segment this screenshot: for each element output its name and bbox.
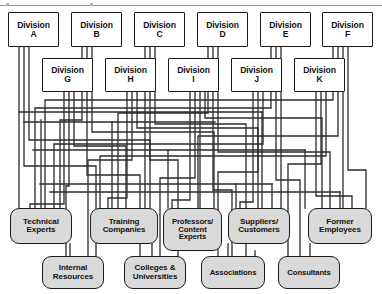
division-a[interactable]: Division A: [8, 12, 59, 47]
division-f-label: Division F: [331, 21, 364, 39]
internal-resources[interactable]: Internal Resources: [42, 256, 104, 289]
colleges-universities[interactable]: Colleges & Universities: [124, 256, 186, 289]
training-companies-label: Training Companies: [103, 218, 146, 235]
colleges-universities-label: Colleges & Universities: [133, 264, 178, 281]
suppliers-customers[interactable]: Suppliers/ Customers: [228, 208, 290, 244]
division-e-label: Division E: [269, 21, 302, 39]
division-h-label: Division H: [114, 66, 147, 84]
division-k-label: Division K: [303, 66, 336, 84]
technical-experts-label: Technical Experts: [23, 218, 59, 235]
diagram-canvas: Division A Division B Division C Divisio…: [0, 0, 382, 294]
technical-experts[interactable]: Technical Experts: [10, 208, 72, 244]
division-b-label: Division B: [80, 21, 113, 39]
division-d-label: Division D: [206, 21, 239, 39]
division-j[interactable]: Division J: [231, 58, 282, 92]
division-e[interactable]: Division E: [260, 12, 311, 47]
division-g[interactable]: Division G: [42, 58, 93, 92]
former-employees-label: Former Employees: [319, 218, 361, 235]
division-j-label: Division J: [240, 66, 273, 84]
internal-resources-label: Internal Resources: [53, 264, 94, 281]
division-c-label: Division C: [143, 21, 176, 39]
division-k[interactable]: Division K: [294, 58, 345, 92]
associations-label: Associations: [210, 269, 257, 277]
professors-content-experts[interactable]: Professors/ Content Experts: [163, 208, 222, 251]
former-employees[interactable]: Former Employees: [308, 208, 372, 244]
consultants-label: Consultants: [287, 269, 330, 277]
division-i-label: Division I: [177, 66, 210, 84]
suppliers-customers-label: Suppliers/ Customers: [238, 218, 279, 235]
division-f[interactable]: Division F: [322, 12, 373, 47]
division-c[interactable]: Division C: [134, 12, 185, 47]
division-a-label: Division A: [17, 21, 50, 39]
training-companies[interactable]: Training Companies: [90, 208, 158, 244]
division-b[interactable]: Division B: [71, 12, 122, 47]
professors-content-experts-label: Professors/ Content Experts: [172, 218, 213, 242]
division-h[interactable]: Division H: [105, 58, 156, 92]
consultants[interactable]: Consultants: [278, 256, 340, 289]
division-i[interactable]: Division I: [168, 58, 219, 92]
associations[interactable]: Associations: [201, 256, 265, 289]
division-d[interactable]: Division D: [197, 12, 248, 47]
division-g-label: Division G: [51, 66, 84, 84]
